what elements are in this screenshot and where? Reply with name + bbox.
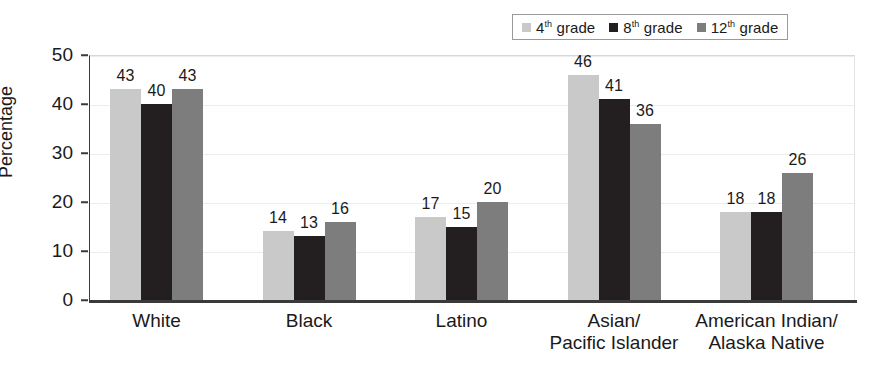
bar — [751, 212, 782, 300]
bar-value-label: 16 — [331, 200, 349, 218]
y-axis-tick-mark — [81, 54, 88, 56]
legend-swatch-icon — [522, 23, 531, 32]
bar — [141, 104, 172, 300]
bar-value-label: 17 — [422, 195, 440, 213]
bar — [568, 75, 599, 300]
x-axis-category-label: Asian/Pacific Islander — [550, 310, 679, 355]
bar — [325, 222, 356, 300]
bar-value-label: 13 — [300, 214, 318, 232]
bar-value-label: 40 — [148, 82, 166, 100]
x-axis-category-line-1: American Indian/ — [695, 310, 838, 332]
y-axis-tick-label: 20 — [33, 191, 73, 213]
legend-label: 4th grade — [536, 19, 595, 36]
bar-value-label: 43 — [179, 67, 197, 85]
bar-value-label: 14 — [269, 209, 287, 227]
y-axis-tick-label: 10 — [33, 240, 73, 262]
legend-swatch-icon — [697, 23, 706, 32]
legend-label: 12th grade — [711, 19, 779, 36]
bar-value-label: 18 — [727, 190, 745, 208]
bar — [415, 217, 446, 300]
legend-item-3[interactable]: 12th grade — [697, 19, 779, 36]
x-axis-category-label: White — [132, 310, 181, 332]
gridline — [90, 105, 854, 106]
bar — [477, 202, 508, 300]
chart-legend: 4th grade8th grade12th grade — [512, 14, 788, 40]
x-axis-category-line-2: Pacific Islander — [550, 332, 679, 354]
bar-value-label: 43 — [117, 67, 135, 85]
y-axis-tick-label: 40 — [33, 93, 73, 115]
x-axis-category-line-1: Black — [286, 310, 332, 332]
x-axis-category-line-1: Asian/ — [550, 310, 679, 332]
x-axis-category-label: Black — [286, 310, 332, 332]
x-axis-category-label: Latino — [436, 310, 488, 332]
legend-swatch-icon — [609, 23, 618, 32]
y-axis-tick-mark — [81, 152, 88, 154]
gridline — [90, 56, 854, 57]
bar-value-label: 36 — [636, 102, 654, 120]
bar-value-label: 46 — [574, 53, 592, 71]
y-axis-tick-label: 0 — [33, 289, 73, 311]
bar-value-label: 15 — [453, 205, 471, 223]
gridline — [90, 154, 854, 155]
x-axis-category-label: American Indian/Alaska Native — [695, 310, 838, 355]
bar — [782, 173, 813, 300]
y-axis-tick-label: 50 — [33, 44, 73, 66]
y-axis-tick-mark — [81, 250, 88, 252]
x-axis-category-line-2: Alaska Native — [695, 332, 838, 354]
x-axis-baseline — [89, 300, 857, 303]
bar — [446, 227, 477, 301]
bar — [172, 89, 203, 300]
bar-value-label: 18 — [758, 190, 776, 208]
x-axis-category-line-1: Latino — [436, 310, 488, 332]
legend-item-2[interactable]: 8th grade — [609, 19, 682, 36]
y-axis-tick-mark — [81, 103, 88, 105]
bar — [630, 124, 661, 300]
bar-value-label: 41 — [605, 77, 623, 95]
y-axis-tick-mark — [81, 201, 88, 203]
y-axis-tick-mark — [81, 299, 88, 301]
y-axis-title: Percentage — [0, 86, 17, 178]
bar — [110, 89, 141, 300]
bar — [599, 99, 630, 300]
bar — [294, 236, 325, 300]
bar-value-label: 26 — [789, 151, 807, 169]
bar — [263, 231, 294, 300]
bar — [720, 212, 751, 300]
y-axis-tick-label: 30 — [33, 142, 73, 164]
legend-item-1[interactable]: 4th grade — [522, 19, 595, 36]
legend-label: 8th grade — [623, 19, 682, 36]
x-axis-category-line-1: White — [132, 310, 181, 332]
bar-value-label: 20 — [484, 180, 502, 198]
